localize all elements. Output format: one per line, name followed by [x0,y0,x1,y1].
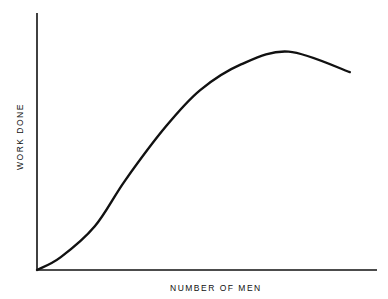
chart-canvas [0,0,388,299]
work-curve [37,51,350,270]
y-axis-label: WORK DONE [15,110,25,170]
x-axis-label: NUMBER OF MEN [170,283,262,293]
